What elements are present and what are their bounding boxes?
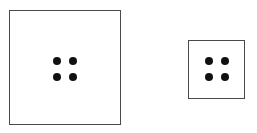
large-square-box [9,10,121,125]
large-box-dot-top-left [53,57,61,65]
small-box-dot-top-right [221,57,229,65]
small-square-box [188,40,245,99]
large-box-dot-top-right [69,57,77,65]
small-box-dot-top-left [205,57,213,65]
small-box-dot-bottom-left [205,73,213,81]
small-box-dot-bottom-right [221,73,229,81]
large-box-dot-bottom-right [69,73,77,81]
large-box-dot-bottom-left [53,73,61,81]
